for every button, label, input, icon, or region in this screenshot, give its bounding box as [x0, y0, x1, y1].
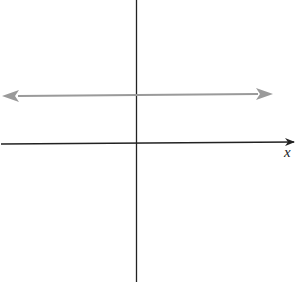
- horizontal-line: [18, 94, 258, 96]
- right-arrow-icon: [256, 88, 273, 100]
- coordinate-plane: [0, 0, 297, 284]
- x-axis-label: x: [284, 144, 291, 161]
- x-axis: [1, 142, 294, 144]
- left-arrow-icon: [2, 90, 19, 102]
